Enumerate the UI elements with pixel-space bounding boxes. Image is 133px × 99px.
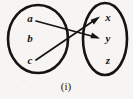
arrow-a-to-y-head	[91, 33, 101, 39]
domain-element-a: a	[27, 12, 33, 24]
left-set-ellipse	[8, 5, 68, 73]
domain-element-c: c	[28, 54, 33, 66]
codomain-element-z: z	[105, 54, 111, 66]
arrow-c-to-x-head	[91, 16, 100, 24]
mapping-figure: a b c x y z (i)	[0, 0, 133, 99]
arrow-a-to-y-shaft	[36, 21, 97, 38]
diagram-canvas: a b c x y z (i)	[0, 0, 133, 99]
domain-element-b: b	[27, 32, 33, 44]
codomain-element-y: y	[104, 32, 111, 44]
figure-caption: (i)	[61, 80, 72, 93]
codomain-element-x: x	[104, 11, 111, 23]
